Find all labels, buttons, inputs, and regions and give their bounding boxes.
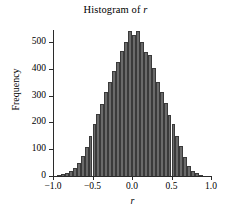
y-axis-tick-label: 100 <box>3 144 46 154</box>
histogram-bar <box>199 175 203 176</box>
x-axis-tick-label: 0.0 <box>112 181 152 192</box>
histogram-bars <box>53 26 212 176</box>
histogram-figure: Histogram of r 0100200300400500 −1.0−0.5… <box>0 0 231 214</box>
chart-title-variable: r <box>143 4 147 15</box>
x-axis-tick-label: −0.5 <box>73 181 113 192</box>
x-axis-tick <box>93 176 94 180</box>
x-axis-title: r <box>53 195 212 206</box>
x-axis-tick <box>132 176 133 180</box>
x-axis-tick <box>211 176 212 180</box>
x-axis-tick <box>172 176 173 180</box>
y-axis-tick-label: 500 <box>3 37 46 47</box>
chart-title: Histogram of r <box>0 4 231 15</box>
y-axis-tick-label: 0 <box>3 171 46 181</box>
x-axis-tick <box>53 176 54 180</box>
x-axis-tick-label: −1.0 <box>33 181 73 192</box>
x-axis-tick-label: 1.0 <box>191 181 231 192</box>
x-axis-tick-label: 0.5 <box>152 181 192 192</box>
y-axis-title: Frequency <box>10 50 21 130</box>
chart-title-text: Histogram of <box>84 4 144 15</box>
